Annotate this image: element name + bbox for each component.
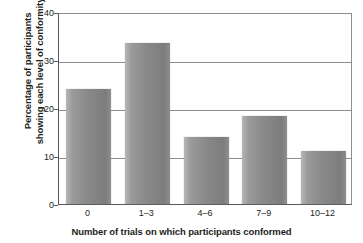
y-tick-label: 20 bbox=[32, 105, 54, 114]
x-tick-label: 10–12 bbox=[293, 208, 352, 219]
bar bbox=[301, 151, 346, 204]
y-axis-ticks: 010203040 bbox=[28, 13, 54, 205]
y-tick-mark bbox=[54, 205, 58, 206]
bar bbox=[66, 89, 111, 204]
x-tick-label: 0 bbox=[58, 208, 117, 219]
y-tick-label: 40 bbox=[32, 9, 54, 18]
x-tick-label: 7–9 bbox=[234, 208, 293, 219]
x-tick-label: 1–3 bbox=[117, 208, 176, 219]
x-tick-label: 4–6 bbox=[176, 208, 235, 219]
bar bbox=[242, 116, 287, 204]
y-tick-label: 0 bbox=[32, 201, 54, 210]
bars-group bbox=[59, 14, 351, 204]
bar bbox=[184, 137, 229, 204]
bar-chart: Percentage of participants showing each … bbox=[0, 0, 363, 243]
plot-area bbox=[58, 13, 352, 205]
y-tick-label: 30 bbox=[32, 57, 54, 66]
y-tick-label: 10 bbox=[32, 153, 54, 162]
x-axis-ticks: 01–34–67–910–12 bbox=[58, 208, 352, 222]
x-axis-title: Number of trials on which participants c… bbox=[0, 226, 363, 237]
bar bbox=[125, 43, 170, 204]
